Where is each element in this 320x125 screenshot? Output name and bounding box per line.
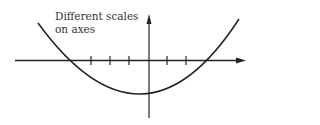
annotation-line-1: Different scales: [55, 10, 139, 23]
scale-annotation: Different scales on axes: [55, 10, 139, 36]
y-axis-arrow-icon: [147, 14, 152, 24]
x-axis-arrow-icon: [236, 58, 246, 64]
annotation-line-2: on axes: [55, 23, 139, 36]
